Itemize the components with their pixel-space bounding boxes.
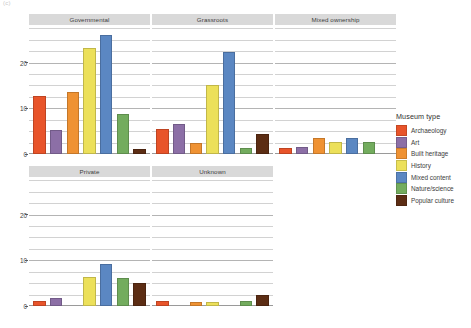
- plot-area: [275, 26, 396, 154]
- bar-slot: [221, 178, 238, 306]
- bar: [256, 134, 268, 154]
- y-axis-tick-mark: [25, 214, 28, 215]
- legend-swatch-icon: [396, 172, 407, 183]
- bar: [83, 277, 95, 306]
- bar: [279, 148, 291, 154]
- bar-slot: [310, 26, 327, 154]
- bar-slot: [327, 26, 344, 154]
- legend-swatch-icon: [396, 195, 407, 206]
- bar-slot: [187, 178, 204, 306]
- plot-area: [29, 178, 150, 306]
- facet-strip: Private: [29, 166, 150, 177]
- bar: [117, 278, 129, 306]
- y-axis: 01020: [16, 178, 27, 306]
- legend-swatch-icon: [396, 160, 407, 171]
- facet-label: Private: [80, 168, 100, 175]
- bar-slot: [238, 178, 255, 306]
- bar: [156, 129, 168, 154]
- bar: [100, 35, 112, 154]
- y-axis-tick-mark: [25, 108, 28, 109]
- facet-label: Grassroots: [197, 16, 228, 23]
- legend-swatch-icon: [396, 148, 407, 159]
- legend-swatch-icon: [396, 183, 407, 194]
- facet-strip: Governmental: [29, 14, 150, 25]
- bar-series: [29, 178, 150, 306]
- bar-series: [275, 26, 396, 154]
- bar-slot: [221, 26, 238, 154]
- bar-slot: [187, 26, 204, 154]
- facet-label: Unknown: [199, 168, 226, 175]
- bar-slot: [98, 178, 115, 306]
- bar-slot: [154, 178, 171, 306]
- bar: [133, 283, 145, 306]
- legend-item[interactable]: Archaeology: [396, 125, 471, 137]
- bar-slot: [131, 26, 148, 154]
- legend-item-label: History: [411, 162, 431, 169]
- legend-item[interactable]: Built heritage: [396, 148, 471, 160]
- facet-panel: Mixed ownership: [275, 14, 396, 154]
- y-axis-tick-mark: [25, 260, 28, 261]
- bar: [100, 264, 112, 307]
- y-axis-tick-mark: [25, 306, 28, 307]
- facet-strip: Unknown: [152, 166, 273, 177]
- legend-item-label: Nature/science: [411, 185, 454, 192]
- bar-slot: [238, 26, 255, 154]
- bar: [363, 142, 375, 154]
- bar-slot: [277, 26, 294, 154]
- bar: [133, 149, 145, 154]
- bar-slot: [171, 26, 188, 154]
- bar-slot: [204, 26, 221, 154]
- legend-item[interactable]: History: [396, 160, 471, 172]
- bar: [240, 148, 252, 154]
- legend-swatch-icon: [396, 137, 407, 148]
- bar: [296, 147, 308, 154]
- bar-slot: [171, 178, 188, 306]
- facet-panel: Governmental: [29, 14, 150, 154]
- legend-item-label: Popular culture: [411, 197, 454, 204]
- bar-slot: [361, 26, 378, 154]
- legend-item[interactable]: Mixed content: [396, 171, 471, 183]
- bar-slot: [64, 26, 81, 154]
- bar: [190, 143, 202, 154]
- bar-slot: [115, 26, 132, 154]
- legend-title: Museum type: [396, 112, 471, 121]
- facet-panel: Grassroots: [152, 14, 273, 154]
- bar: [50, 130, 62, 154]
- legend-item[interactable]: Popular culture: [396, 195, 471, 207]
- legend-item[interactable]: Nature/science: [396, 183, 471, 195]
- bar: [329, 142, 341, 154]
- facet-panel: Unknown: [152, 166, 273, 306]
- bar: [190, 302, 202, 306]
- bar: [240, 301, 252, 306]
- bar: [50, 298, 62, 306]
- plot-area: [152, 26, 273, 154]
- bar-slot: [81, 26, 98, 154]
- plot-area: [152, 178, 273, 306]
- legend-item-label: Archaeology: [411, 127, 447, 134]
- legend-item[interactable]: Art: [396, 137, 471, 149]
- bar-slot: [294, 26, 311, 154]
- legend: Museum type ArchaeologyArtBuilt heritage…: [396, 112, 471, 206]
- legend-item-label: Built heritage: [411, 150, 448, 157]
- legend-items: ArchaeologyArtBuilt heritageHistoryMixed…: [396, 125, 471, 206]
- chart-figure: (c) GovernmentalGrassrootsMixed ownershi…: [0, 0, 471, 328]
- bar: [223, 52, 235, 154]
- legend-item-label: Mixed content: [411, 174, 451, 181]
- facet-strip: Grassroots: [152, 14, 273, 25]
- bar-slot: [48, 26, 65, 154]
- bar: [173, 124, 185, 154]
- bar-slot: [31, 26, 48, 154]
- facet-panel: Private: [29, 166, 150, 306]
- bar-slot: [131, 178, 148, 306]
- y-axis-tick-mark: [25, 62, 28, 63]
- bar: [346, 138, 358, 154]
- bar-slot: [98, 26, 115, 154]
- bar: [33, 301, 45, 306]
- bar: [206, 302, 218, 306]
- y-axis-tick-mark: [25, 154, 28, 155]
- bar-slot: [48, 178, 65, 306]
- bar-slot: [31, 178, 48, 306]
- bar: [256, 295, 268, 306]
- bar-slot: [344, 26, 361, 154]
- bar: [156, 301, 168, 306]
